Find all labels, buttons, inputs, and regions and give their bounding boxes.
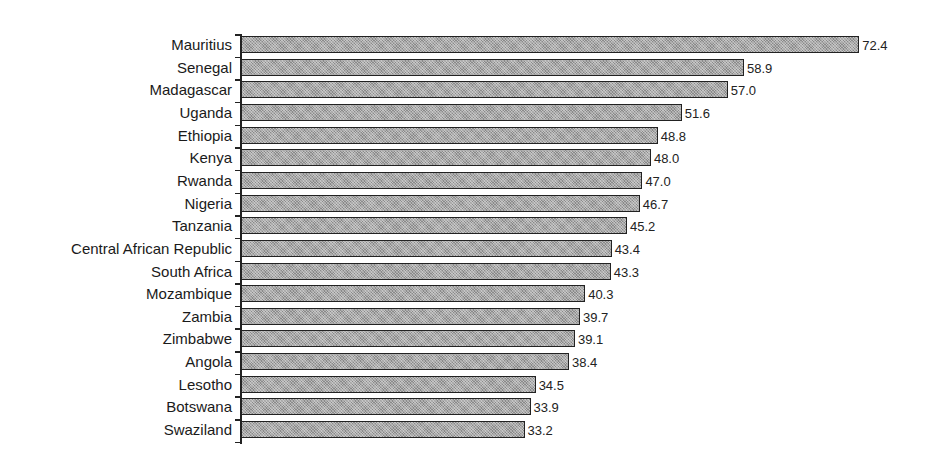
axis-tick bbox=[235, 396, 241, 398]
category-label: Botswana bbox=[166, 397, 232, 417]
bar bbox=[241, 421, 525, 438]
category-label: South Africa bbox=[151, 262, 232, 282]
bar-row: Zambia39.7 bbox=[0, 306, 936, 329]
bar-row: Rwanda47.0 bbox=[0, 170, 936, 193]
value-label: 33.9 bbox=[534, 399, 559, 417]
value-label: 48.8 bbox=[661, 128, 686, 146]
axis-tick bbox=[235, 328, 241, 330]
category-label: Zambia bbox=[182, 307, 232, 327]
bar-row: Lesotho34.5 bbox=[0, 374, 936, 397]
category-label: Kenya bbox=[189, 148, 232, 168]
category-label: Nigeria bbox=[184, 194, 232, 214]
bar bbox=[241, 376, 536, 393]
category-label: Ethiopia bbox=[178, 126, 232, 146]
axis-tick bbox=[235, 419, 241, 421]
axis-tick bbox=[235, 34, 241, 36]
value-label: 38.4 bbox=[572, 354, 597, 372]
axis-tick bbox=[235, 193, 241, 195]
horizontal-bar-chart: Mauritius72.4Senegal58.9Madagascar57.0Ug… bbox=[0, 0, 936, 469]
value-label: 58.9 bbox=[747, 60, 772, 78]
bar bbox=[241, 217, 627, 234]
category-label: Central African Republic bbox=[71, 239, 232, 259]
value-label: 33.2 bbox=[528, 422, 553, 440]
bar bbox=[241, 36, 859, 53]
value-label: 34.5 bbox=[539, 377, 564, 395]
value-label: 51.6 bbox=[685, 105, 710, 123]
bar-row: Uganda51.6 bbox=[0, 102, 936, 125]
value-label: 46.7 bbox=[643, 196, 668, 214]
axis-tick bbox=[235, 57, 241, 59]
category-label: Zimbabwe bbox=[163, 329, 232, 349]
value-label: 39.7 bbox=[583, 309, 608, 327]
axis-tick bbox=[235, 102, 241, 104]
axis-tick bbox=[235, 125, 241, 127]
category-label: Madagascar bbox=[149, 80, 232, 100]
bar bbox=[241, 104, 682, 121]
axis-tick bbox=[235, 351, 241, 353]
value-label: 43.3 bbox=[614, 264, 639, 282]
bar-row: Angola38.4 bbox=[0, 351, 936, 374]
category-label: Tanzania bbox=[172, 216, 232, 236]
category-label: Lesotho bbox=[179, 375, 232, 395]
bar-row: Zimbabwe39.1 bbox=[0, 328, 936, 351]
axis-tick bbox=[235, 215, 241, 217]
bar bbox=[241, 127, 658, 144]
bar-row: Tanzania45.2 bbox=[0, 215, 936, 238]
value-label: 57.0 bbox=[731, 82, 756, 100]
axis-tick bbox=[235, 170, 241, 172]
bar bbox=[241, 81, 728, 98]
value-label: 39.1 bbox=[578, 331, 603, 349]
bar-row: Senegal58.9 bbox=[0, 57, 936, 80]
value-label: 43.4 bbox=[615, 241, 640, 259]
axis-tick bbox=[235, 306, 241, 308]
value-label: 47.0 bbox=[645, 173, 670, 191]
bar bbox=[241, 263, 611, 280]
value-label: 40.3 bbox=[588, 286, 613, 304]
category-label: Swaziland bbox=[164, 420, 232, 440]
category-label: Senegal bbox=[177, 58, 232, 78]
bar bbox=[241, 195, 640, 212]
category-label: Mozambique bbox=[146, 284, 232, 304]
category-label: Mauritius bbox=[171, 35, 232, 55]
bar bbox=[241, 149, 651, 166]
axis-tick bbox=[235, 238, 241, 240]
bar-row: Mauritius72.4 bbox=[0, 34, 936, 57]
bar-row: Kenya48.0 bbox=[0, 147, 936, 170]
value-label: 72.4 bbox=[862, 37, 887, 55]
bar bbox=[241, 285, 585, 302]
bar bbox=[241, 59, 744, 76]
bar bbox=[241, 398, 531, 415]
bar bbox=[241, 172, 642, 189]
bar bbox=[241, 330, 575, 347]
bar-row: Madagascar57.0 bbox=[0, 79, 936, 102]
bar-row: Swaziland33.2 bbox=[0, 419, 936, 442]
axis-tick bbox=[235, 147, 241, 149]
category-label: Uganda bbox=[179, 103, 232, 123]
axis-tick bbox=[235, 261, 241, 263]
category-label: Rwanda bbox=[177, 171, 232, 191]
bar-row: Ethiopia48.8 bbox=[0, 125, 936, 148]
bar bbox=[241, 308, 580, 325]
bar-row: South Africa43.3 bbox=[0, 261, 936, 284]
bar bbox=[241, 240, 612, 257]
bar-row: Mozambique40.3 bbox=[0, 283, 936, 306]
bar-row: Nigeria46.7 bbox=[0, 193, 936, 216]
axis-tick bbox=[235, 374, 241, 376]
bar-row: Central African Republic43.4 bbox=[0, 238, 936, 261]
value-label: 45.2 bbox=[630, 218, 655, 236]
axis-tick bbox=[235, 442, 241, 444]
category-label: Angola bbox=[185, 352, 232, 372]
axis-tick bbox=[235, 79, 241, 81]
value-label: 48.0 bbox=[654, 150, 679, 168]
axis-tick bbox=[235, 283, 241, 285]
bar bbox=[241, 353, 569, 370]
bar-row: Botswana33.9 bbox=[0, 396, 936, 419]
